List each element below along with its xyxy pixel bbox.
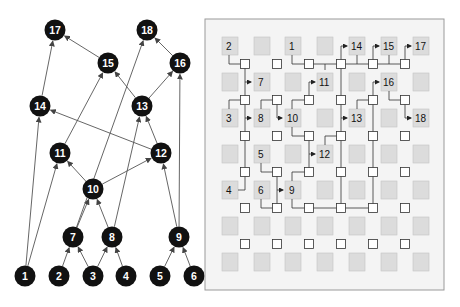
tile-label-14: 14 [351,41,363,52]
switch-box-r4-c0 [241,204,250,213]
tile-label-1: 1 [289,41,295,52]
switch-box-r5-c2 [305,240,314,249]
grid-tile-r6-c3 [317,253,333,271]
grid-tile-r6-c1 [254,253,270,271]
switch-box-r4-c1 [273,204,282,213]
switch-box-r5-c0 [241,240,250,249]
tile-label-6: 6 [258,185,264,196]
grid-tile-r6-c5 [381,253,397,271]
grid-tile-r4-c5 [381,181,397,199]
tile-label-8: 8 [258,113,264,124]
switch-box-r1-c1 [273,96,282,105]
switch-box-r2-c0 [241,132,250,141]
tile-label-12: 12 [319,149,331,160]
grid-tile-r5-c3 [317,217,333,235]
switch-box-r3-c3 [337,168,346,177]
tile-label-17: 17 [415,41,427,52]
switch-box-r2-c3 [337,132,346,141]
tile-label-13: 13 [351,113,363,124]
switch-box-r3-c1 [273,168,282,177]
switch-box-r4-c4 [369,204,378,213]
switch-box-r1-c2 [305,96,314,105]
switch-box-r4-c2 [305,204,314,213]
tile-label-9: 9 [289,185,295,196]
grid-tile-r6-c0 [222,253,238,271]
grid-tile-r5-c2 [285,217,301,235]
switch-box-r2-c4 [369,132,378,141]
switch-box-r5-c1 [273,240,282,249]
grid-tile-r4-c3 [317,181,333,199]
grid-tile-r0-c3 [317,37,333,55]
switch-box-r1-c4 [369,96,378,105]
switch-box-r0-c0 [241,60,250,69]
tile-label-5: 5 [258,149,264,160]
grid-tile-r5-c1 [254,217,270,235]
grid-tile-r4-c4 [349,181,365,199]
tile-label-11: 11 [319,77,330,88]
grid-tile-r5-c4 [349,217,365,235]
grid-tile-r4-c6 [413,181,429,199]
tile-label-3: 3 [226,113,232,124]
grid-tile-r6-c4 [349,253,365,271]
grid-tile-r3-c5 [381,145,397,163]
tile-label-4: 4 [226,185,232,196]
tile-label-16: 16 [383,77,395,88]
switch-box-r4-c3 [337,204,346,213]
switch-box-r4-c5 [401,204,410,213]
grid-tile-r3-c6 [413,145,429,163]
switch-box-r2-c2 [305,132,314,141]
switch-box-r3-c2 [305,168,314,177]
grid-tile-r1-c0 [222,73,238,91]
switch-box-r2-c1 [273,132,282,141]
switch-box-r0-c1 [273,60,282,69]
switch-box-r5-c4 [369,240,378,249]
grid-tile-r1-c6 [413,73,429,91]
tile-label-7: 7 [258,77,264,88]
grid-tile-r5-c5 [381,217,397,235]
tile-label-15: 15 [383,41,395,52]
grid-tile-r5-c6 [413,217,429,235]
switch-box-r0-c3 [337,60,346,69]
switch-box-r2-c5 [401,132,410,141]
tile-label-2: 2 [226,41,232,52]
switch-box-r5-c5 [401,240,410,249]
grid-tile-r6-c6 [413,253,429,271]
switch-box-r1-c5 [401,96,410,105]
switch-box-r3-c5 [401,168,410,177]
switch-box-r0-c4 [369,60,378,69]
grid-tile-r6-c2 [285,253,301,271]
tile-label-10: 10 [287,113,299,124]
grid-tile-r1-c2 [285,73,301,91]
grid-tile-r5-c0 [222,217,238,235]
grid-tile-r2-c5 [381,109,397,127]
switch-box-r5-c3 [337,240,346,249]
placement-grid: 211415177111638101318512469 [0,0,460,307]
grid-tile-r2-c3 [317,109,333,127]
switch-box-r1-c0 [241,96,250,105]
switch-box-r0-c2 [305,60,314,69]
switch-box-r3-c0 [241,168,250,177]
grid-tile-r0-c1 [254,37,270,55]
tile-label-18: 18 [415,113,427,124]
switch-box-r0-c5 [401,60,410,69]
grid-tile-r3-c0 [222,145,238,163]
switch-box-r3-c4 [369,168,378,177]
grid-tile-r3-c4 [349,145,365,163]
grid-tile-r1-c4 [349,73,365,91]
switch-box-r1-c3 [337,96,346,105]
grid-tile-r3-c2 [285,145,301,163]
